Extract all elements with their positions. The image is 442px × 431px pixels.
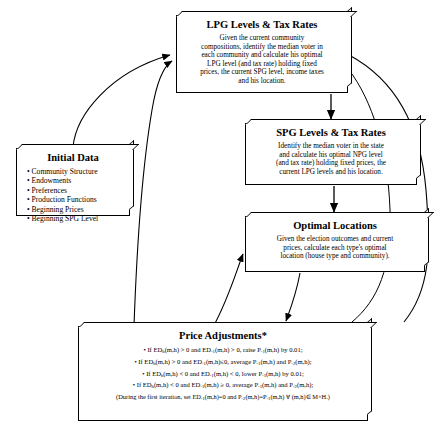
node-body-line: and calculate his optimal NPG level [276,151,386,160]
edge-optimal-to-price [286,273,300,321]
node-body-line: each community and calculate his optimal [200,51,324,60]
node-body-line: (and tax rate) holding fixed prices, the [276,159,386,168]
node-title: Initial Data [47,152,99,164]
node-lpg-levels-tax-rates[interactable]: LPG Levels & Tax Rates Given the current… [176,15,348,93]
list-item: • Beginning Prices [27,205,98,214]
node-formula-list: • If EDh(m,h) > 0 and ED-1(m,h) > 0, rai… [83,345,363,404]
node-body-line: and his location. [200,77,324,86]
node-body-line: Given the current community [200,34,324,43]
list-item: • Community Structure [27,167,98,176]
list-item: • Preferences [27,186,98,195]
node-body-line: Given the election outcomes and current [277,235,393,244]
node-body: Given the election outcomes and current … [277,235,393,261]
node-body-line: compositions, identify the median voter … [200,43,324,52]
node-body-line: current LPG levels and his location. [276,168,386,177]
node-price-adjustments[interactable]: Price Adjustments* • If EDh(m,h) > 0 and… [78,326,368,421]
node-body-line: prices, the current SPG level, income ta… [200,68,324,77]
edge-price-to-optimal [213,254,243,327]
node-title: LPG Levels & Tax Rates [207,19,318,31]
list-item: • Production Functions [27,195,98,204]
node-body-line: location (house type and community). [277,252,393,261]
formula-line: • If EDh(m,h) < 0 and ED-1(m,h) ≥ 0, ave… [83,380,363,392]
edge-lpg-right-sweep [349,55,428,322]
node-spg-levels-tax-rates[interactable]: SPG Levels & Tax Rates Identify the medi… [245,123,417,185]
edge-price-to-lpg [134,61,172,326]
node-body: Given the current community compositions… [200,34,324,86]
formula-line: • If EDh(m,h) < 0 and ED-1(m,h) < 0, low… [83,369,363,381]
edge-lpg-inner-sweep [349,70,390,322]
formula-note: (During the first iteration, set ED-1(m,… [83,392,363,404]
node-bullet-list: • Community Structure • Endowments • Pre… [21,167,98,223]
node-body: Identify the median voter in the state a… [276,142,386,176]
formula-line: • If EDh(m,h) > 0 and ED-1(m,h)≤0, avera… [83,357,363,369]
node-title: SPG Levels & Tax Rates [276,127,386,139]
formula-line: • If EDh(m,h) > 0 and ED-1(m,h) > 0, rai… [83,345,363,357]
edge-initial-to-lpg [73,55,170,147]
node-body-line: prices, calculate each type's optimal [277,244,393,253]
node-body-line: Identify the median voter in the state [276,142,386,151]
list-item: • Endowments [27,176,98,185]
node-title: Price Adjustments* [179,330,267,342]
node-initial-data[interactable]: Initial Data • Community Structure • End… [16,148,130,216]
node-optimal-locations[interactable]: Optimal Locations Given the election out… [245,216,425,272]
diagram-canvas: LPG Levels & Tax Rates Given the current… [0,0,442,431]
node-title: Optimal Locations [293,220,377,232]
node-body-line: LPG level (and tax rate) holding fixed [200,60,324,69]
list-item: • Beginning SPG Level [27,214,98,223]
